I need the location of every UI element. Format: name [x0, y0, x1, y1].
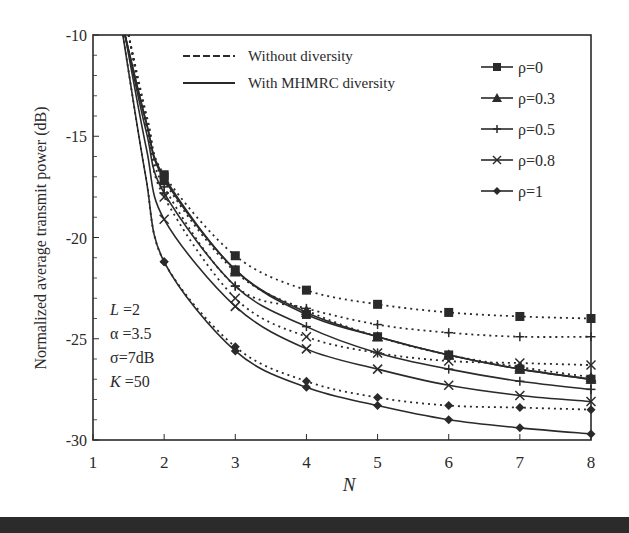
y-tick-label: -10	[66, 27, 87, 44]
chart-figure: -10-15-20-25-30 12345678 Normalized aver…	[0, 0, 629, 533]
y-axis: -10-15-20-25-30	[66, 27, 99, 449]
plot-frame	[93, 35, 591, 440]
y-tick-label: -25	[66, 331, 87, 348]
x-tick-label: 3	[231, 453, 240, 472]
chart-canvas: -10-15-20-25-30 12345678 Normalized aver…	[0, 0, 629, 533]
y-axis-label: Normalized average transmit power (dB)	[32, 106, 50, 369]
annotation-line: α =3.5	[110, 325, 151, 342]
marker-legend-label: ρ=0.8	[518, 152, 555, 170]
marker-legend-label: ρ=0.3	[518, 90, 555, 108]
style-legend-label: Without diversity	[248, 48, 353, 64]
line-style-legend: Without diversityWith MHMRC diversity	[183, 48, 395, 91]
rho-marker-legend: ρ=0ρ=0.3ρ=0.5ρ=0.8ρ=1	[481, 59, 555, 201]
parameter-annotation: L =2α =3.5σ=7dBK =50	[109, 301, 154, 390]
x-tick-label: 5	[373, 453, 382, 472]
bottom-dark-band	[0, 517, 629, 533]
marker-legend-label: ρ=0.5	[518, 121, 555, 139]
x-tick-label: 4	[302, 453, 311, 472]
marker-legend-label: ρ=0	[518, 59, 543, 77]
annotation-line: σ=7dB	[110, 349, 154, 366]
y-tick-label: -20	[66, 230, 87, 247]
x-tick-label: 6	[444, 453, 453, 472]
annotation-line: L =2	[109, 301, 140, 318]
y-tick-label: -30	[66, 432, 87, 449]
x-tick-label: 7	[516, 453, 525, 472]
x-tick-label: 1	[89, 453, 98, 472]
x-tick-label: 2	[160, 453, 169, 472]
marker-legend-label: ρ=1	[518, 183, 543, 201]
style-legend-label: With MHMRC diversity	[248, 75, 395, 91]
y-tick-label: -15	[66, 128, 87, 145]
x-axis-label: N	[342, 474, 357, 495]
x-tick-label: 8	[587, 453, 596, 472]
data-markers	[159, 170, 597, 438]
annotation-line: K =50	[109, 373, 150, 390]
